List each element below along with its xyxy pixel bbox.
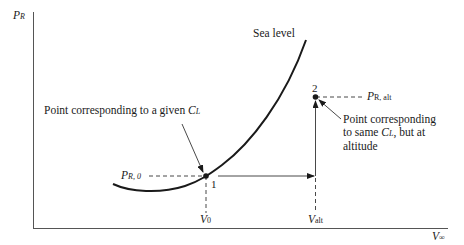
p1-annotation-var: C <box>188 104 196 116</box>
p2-annotation-line3: altitude <box>343 140 436 153</box>
x-axis-label-main: V <box>432 230 439 242</box>
point-1-number: 1 <box>211 178 217 191</box>
p1-annotation-sub: L <box>196 107 200 116</box>
p2-annotation-line2-prefix: to same <box>343 126 381 138</box>
p1-power-label-sub: R, 0 <box>128 172 141 181</box>
p1-velocity-label-main: V <box>200 213 207 225</box>
p2-annotation-arrow <box>319 100 341 119</box>
p1-annotation: Point corresponding to a given CL <box>44 104 200 118</box>
p1-velocity-label: V0 <box>200 213 211 227</box>
p2-annotation-var: C <box>381 126 389 138</box>
y-axis-label-sub: R <box>20 12 25 21</box>
p2-velocity-label: Valt <box>308 213 323 227</box>
p2-power-label: PR, alt <box>367 90 391 104</box>
y-axis-label-main: P <box>13 9 20 21</box>
p2-velocity-label-sub: alt <box>315 216 323 225</box>
p2-annotation-line2: to same CL, but at <box>343 126 436 140</box>
p2-annotation: Point corresponding to same CL, but at a… <box>343 113 436 153</box>
p1-annotation-arrow <box>182 124 203 172</box>
point-2-marker <box>313 94 319 100</box>
point-2-number: 2 <box>312 82 318 95</box>
x-axis-label: V∞ <box>432 230 445 244</box>
p2-power-label-main: P <box>367 90 374 102</box>
p2-power-label-sub: R, alt <box>374 93 391 102</box>
x-axis-label-sub: ∞ <box>439 233 445 242</box>
p2-annotation-line2-suffix: , but at <box>393 126 425 138</box>
y-axis-label: PR <box>13 9 25 23</box>
p2-annotation-line1: Point corresponding <box>343 113 436 126</box>
p1-power-label-main: P <box>121 169 128 181</box>
point-1-marker <box>203 173 209 179</box>
sea-level-label: Sea level <box>253 27 295 40</box>
p1-power-label: PR, 0 <box>121 169 141 183</box>
p2-velocity-label-main: V <box>308 213 315 225</box>
p1-annotation-text: Point corresponding to a given <box>44 104 188 116</box>
p1-velocity-label-sub: 0 <box>207 216 211 225</box>
